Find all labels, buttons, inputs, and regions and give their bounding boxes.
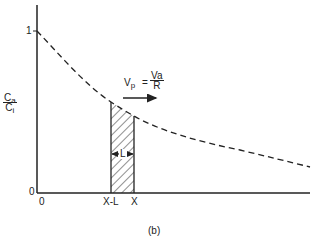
x-tick-label-x: X (131, 197, 138, 207)
y-tick-label-0: 0 (29, 187, 35, 197)
velocity-lhs-symbol: V (124, 77, 131, 88)
velocity-lhs: Vp (124, 78, 135, 88)
velocity-equals: = (142, 78, 148, 88)
window-width-label: L (119, 149, 127, 159)
y-label-denominator: C (5, 102, 12, 113)
y-tick-label-1: 1 (26, 26, 32, 36)
concentration-curve (37, 31, 310, 167)
figure-caption: (b) (148, 226, 160, 236)
x-tick-label-0: 0 (39, 197, 45, 207)
velocity-rhs-fraction: Va R (150, 71, 164, 90)
diagram-canvas (0, 0, 312, 238)
x-tick-label-x-minus-l: X-L (103, 197, 119, 207)
y-label-denominator-sub: i (13, 106, 15, 115)
velocity-lhs-sub: p (131, 81, 135, 90)
velocity-rhs-denominator: R (150, 81, 164, 90)
y-axis-label: Ca Ci (3, 93, 17, 112)
